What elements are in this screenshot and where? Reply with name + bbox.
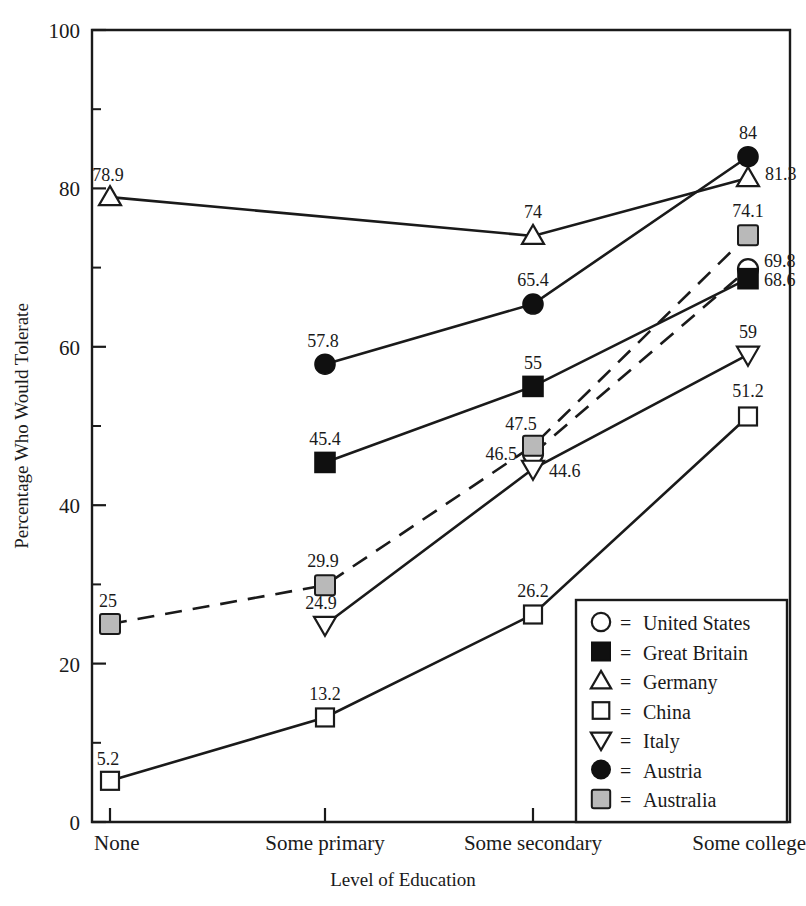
data-point-label: 13.2 xyxy=(309,684,341,704)
marker-square-gray xyxy=(523,436,543,456)
marker-circle-filled xyxy=(315,354,335,374)
y-tick-label: 60 xyxy=(59,336,80,360)
legend-equals-sign: = xyxy=(620,642,631,664)
legend-entry-label: Italy xyxy=(643,730,680,753)
marker-square-open xyxy=(101,772,119,790)
data-point-label: 78.9 xyxy=(92,165,124,185)
marker-circle-open xyxy=(592,613,610,631)
marker-triangle-down-open xyxy=(314,617,336,636)
marker-square-filled xyxy=(315,452,335,472)
legend-entry-label: Australia xyxy=(643,789,716,811)
data-point-label: 74 xyxy=(524,202,542,222)
marker-square-filled xyxy=(738,269,758,289)
data-point-label: 24.9 xyxy=(305,593,337,613)
data-point-label: 84 xyxy=(739,123,757,143)
marker-square-open xyxy=(524,605,542,623)
marker-triangle-down-open xyxy=(737,347,759,366)
marker-square-filled xyxy=(523,376,543,396)
legend-equals-sign: = xyxy=(620,701,631,723)
legend-equals-sign: = xyxy=(620,612,631,634)
x-category-label: Some college xyxy=(692,831,806,855)
marker-square-open xyxy=(739,407,757,425)
data-point-label: 25 xyxy=(99,591,117,611)
series-line xyxy=(110,235,748,624)
series-line xyxy=(325,157,748,365)
y-tick-label: 100 xyxy=(49,19,81,43)
data-point-label: 5.2 xyxy=(97,749,120,769)
marker-square-open xyxy=(593,702,610,719)
data-point-label: 29.9 xyxy=(307,551,339,571)
marker-triangle-down-open xyxy=(522,461,544,480)
marker-circle-filled xyxy=(738,147,758,167)
marker-circle-filled xyxy=(523,294,543,314)
x-axis-title: Level of Education xyxy=(330,869,476,890)
data-point-label: 65.4 xyxy=(517,270,549,290)
y-axis-title: Percentage Who Would Tolerate xyxy=(11,303,32,549)
data-point-label: 59 xyxy=(739,322,757,342)
data-point-label: 45.4 xyxy=(309,429,341,449)
legend-entry-label: Austria xyxy=(643,760,702,782)
data-point-label: 74.1 xyxy=(732,201,764,221)
data-point-label: 47.5 xyxy=(505,414,537,434)
series-line xyxy=(110,178,748,236)
marker-triangle-up-open xyxy=(737,167,759,186)
data-point-label: 51.2 xyxy=(732,381,764,401)
data-point-label: 69.8 xyxy=(764,251,796,271)
x-category-label: Some secondary xyxy=(464,831,603,855)
x-category-label: None xyxy=(94,831,140,855)
data-point-label: 57.8 xyxy=(307,331,339,351)
marker-square-gray xyxy=(100,614,120,634)
legend-entry-label: China xyxy=(643,701,691,723)
legend-entry-label: Germany xyxy=(643,671,717,694)
chart-legend: =United States=Great Britain=Germany=Chi… xyxy=(576,600,787,822)
data-point-label: 26.2 xyxy=(517,581,549,601)
marker-square-gray xyxy=(592,790,610,808)
marker-circle-filled xyxy=(592,760,610,778)
series-australia xyxy=(100,225,758,634)
y-tick-label: 80 xyxy=(59,177,80,201)
legend-item-australia[interactable]: =Australia xyxy=(592,789,717,811)
legend-entry-label: Great Britain xyxy=(643,642,748,664)
x-category-label: Some primary xyxy=(265,831,385,855)
y-tick-label: 20 xyxy=(59,653,80,677)
legend-equals-sign: = xyxy=(620,730,631,752)
y-tick-label: 40 xyxy=(59,494,80,518)
series-united-states xyxy=(523,259,758,464)
marker-square-gray xyxy=(738,225,758,245)
marker-square-open xyxy=(316,708,334,726)
data-point-label: 46.5 xyxy=(486,444,518,464)
legend-entry-label: United States xyxy=(643,612,750,634)
marker-square-filled xyxy=(592,642,610,660)
series-line xyxy=(533,269,748,454)
education-tolerance-line-chart: 020406080100NoneSome primarySome seconda… xyxy=(0,0,806,906)
data-point-label: 44.6 xyxy=(549,461,581,481)
legend-equals-sign: = xyxy=(620,671,631,693)
y-tick-label: 0 xyxy=(70,811,81,835)
series-germany xyxy=(99,167,759,244)
data-point-label: 81.3 xyxy=(765,164,797,184)
legend-equals-sign: = xyxy=(620,789,631,811)
chart-container: 020406080100NoneSome primarySome seconda… xyxy=(0,0,806,906)
data-point-label: 68.6 xyxy=(764,270,796,290)
data-point-label: 55 xyxy=(524,353,542,373)
series-austria xyxy=(315,147,758,375)
legend-equals-sign: = xyxy=(620,760,631,782)
